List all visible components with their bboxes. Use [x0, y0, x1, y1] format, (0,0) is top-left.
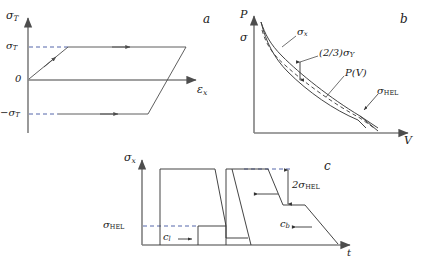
panel-b-graphics [254, 16, 408, 133]
panel-c-second-pulse [226, 169, 251, 245]
panel-b-sigma-hel-label: σHEL [377, 86, 398, 97]
panel-c-x-axis-label: t [347, 248, 351, 258]
panel-a-lower-tick-label: −σT [0, 108, 20, 119]
panel-a-letter: a [203, 13, 210, 25]
panel-b-sigma-hel-arrow [364, 94, 378, 110]
panel-b-y-axis-label-secondary: σ [240, 32, 248, 43]
panel-b-two-thirds-sigma-y-leader [300, 56, 318, 62]
panel-b-letter: b [400, 13, 408, 25]
panel-c-letter: c [324, 160, 331, 172]
panel-b-pv-dashed-curve [262, 30, 374, 128]
figure-vector-graphics [0, 0, 427, 272]
panel-b-hel-kink-segment [360, 116, 378, 131]
panel-a-y-axis-label: σT [6, 10, 19, 22]
panel-b-y-axis-label-primary: P [240, 9, 247, 20]
panel-a-x-axis-label: εx [197, 84, 207, 96]
panel-b-sigma-x-leader [282, 36, 296, 47]
panel-a-origin-label: 0 [15, 74, 21, 84]
panel-c-graphics [142, 160, 350, 245]
panel-b-x-axis-label: V [404, 135, 412, 146]
panel-c-y-axis-label: σx [124, 152, 136, 164]
panel-b-sigma-x-label: σx [297, 27, 308, 38]
panel-c-cb-label: cb [280, 219, 290, 230]
panel-b-pv-label: P(V) [345, 68, 367, 78]
figure-container: σT σT 0 −σT εx a P σ V σx (2/3)σY P(V) σ… [0, 0, 427, 272]
panel-a-graphics [28, 18, 196, 133]
panel-a-loading-ramp-arrow [44, 57, 56, 67]
panel-a-upper-tick-label: σT [6, 41, 17, 52]
panel-b-pv-leader [326, 76, 344, 97]
panel-c-cl-label: cl [163, 232, 171, 243]
panel-c-hel-tick-label: σHEL [103, 220, 124, 231]
panel-c-two-sigma-hel-label: 2σHEL [292, 180, 320, 191]
panel-b-two-thirds-sigma-y-label: (2/3)σY [319, 48, 354, 59]
